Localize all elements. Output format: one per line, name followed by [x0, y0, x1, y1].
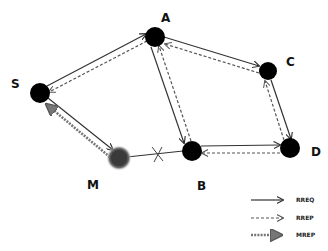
edge-m-b — [127, 147, 183, 162]
legend: RREQ RREP MREP — [251, 196, 316, 238]
edge-a-c — [164, 37, 259, 73]
legend-label: MREP — [296, 231, 316, 238]
legend-item-mrep: MREP — [251, 231, 316, 238]
rreq-arrow — [48, 98, 113, 150]
edge-c-d — [265, 80, 291, 140]
node-s-circle — [30, 83, 50, 103]
edge-a-b — [151, 46, 191, 143]
node-d-circle — [280, 138, 300, 158]
legend-label: RREQ — [296, 196, 314, 203]
rrep-arrow — [165, 44, 259, 73]
node-b-circle — [182, 141, 202, 161]
node-b-label: B — [197, 179, 206, 193]
node-b: B — [182, 141, 206, 193]
node-a: A — [145, 11, 171, 47]
legend-item-rrep: RREP — [251, 214, 314, 221]
node-m-malicious: M — [87, 145, 132, 192]
rreq-arrow — [151, 47, 184, 143]
legend-item-rreq: RREQ — [251, 196, 314, 203]
rrep-arrow — [159, 46, 191, 141]
node-d-label: D — [311, 145, 321, 159]
legend-label: RREP — [296, 214, 314, 221]
node-a-circle — [145, 27, 165, 47]
rreq-arrow — [164, 37, 259, 66]
node-c: C — [259, 55, 295, 80]
rreq-arrow — [201, 145, 280, 146]
node-m-circle — [111, 150, 127, 166]
network-diagram: S A C B D M RREQ RREP MREP — [0, 0, 328, 251]
node-m-label: M — [87, 178, 99, 192]
node-a-label: A — [161, 11, 171, 25]
edge-s-m — [46, 98, 113, 157]
edge-s-a — [47, 34, 147, 92]
mrep-arrow — [46, 104, 110, 157]
node-s: S — [11, 77, 50, 103]
node-c-circle — [259, 62, 277, 80]
node-s-label: S — [11, 77, 20, 91]
node-c-label: C — [286, 55, 295, 69]
broken-link-line — [127, 151, 183, 157]
edge-b-d — [201, 145, 280, 153]
node-d: D — [280, 138, 321, 159]
rreq-arrow — [47, 34, 146, 86]
rrep-arrow — [49, 41, 147, 92]
